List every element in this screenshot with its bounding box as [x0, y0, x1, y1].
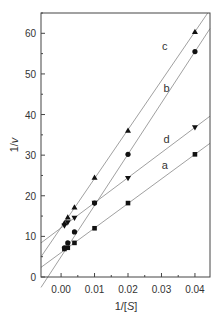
marker-circle — [62, 245, 67, 250]
x-axis-label: 1/[S] — [115, 300, 138, 312]
y-tick-label: 60 — [25, 28, 37, 39]
y-tick-label: 0 — [30, 272, 36, 283]
marker-square — [193, 152, 198, 157]
marker-circle — [72, 229, 77, 234]
series-label-b: b — [163, 82, 169, 94]
x-tick-label: 0.01 — [85, 284, 105, 295]
marker-triangle-up — [192, 29, 198, 34]
marker-square — [92, 226, 97, 231]
marker-triangle-down — [125, 176, 131, 181]
marker-triangle-up — [125, 127, 131, 132]
y-tick-label: 20 — [25, 191, 37, 202]
plot-frame — [41, 13, 210, 277]
marker-circle — [125, 152, 130, 157]
x-tick-label: 0.00 — [51, 284, 71, 295]
marker-triangle-down — [71, 216, 77, 221]
lineweaver-burk-chart: abcd 0.000.010.020.030.04 0102030405060 … — [0, 0, 220, 321]
y-tick-label: 10 — [25, 231, 37, 242]
x-tick-label: 0.03 — [152, 284, 172, 295]
x-tick-label: 0.04 — [185, 284, 205, 295]
marker-square — [72, 241, 77, 246]
marker-square — [126, 201, 131, 206]
marker-circle — [65, 240, 70, 245]
y-axis-label: 1/v — [8, 136, 20, 152]
series-label-c: c — [162, 40, 168, 52]
series-label-d: d — [163, 133, 169, 145]
y-tick-label: 50 — [25, 69, 37, 80]
fit-line-c — [41, 13, 208, 257]
y-tick-label: 40 — [25, 110, 37, 121]
x-axis-ticks: 0.000.010.020.030.04 — [51, 273, 205, 295]
y-tick-label: 30 — [25, 150, 37, 161]
series-label-a: a — [162, 159, 169, 171]
marker-triangle-down — [192, 125, 198, 130]
data-markers — [61, 29, 198, 252]
x-tick-label: 0.02 — [118, 284, 138, 295]
marker-circle — [192, 49, 197, 54]
